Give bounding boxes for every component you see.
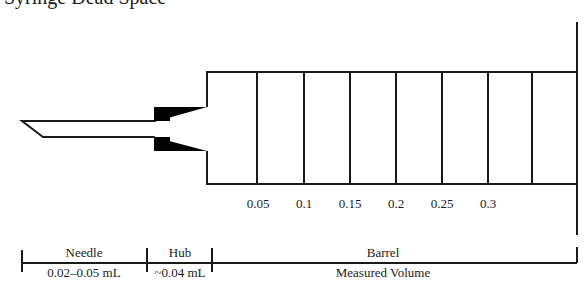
- graduation-label: 0.3: [480, 196, 496, 212]
- needle: [22, 121, 155, 137]
- needle-volume: 0.02–0.05 mL: [47, 265, 120, 281]
- barrel-volume: Measured Volume: [336, 265, 430, 281]
- hub-volume: ~0.04 mL: [154, 265, 205, 281]
- barrel-label: Barrel: [367, 245, 399, 261]
- graduation-label: 0.2: [388, 196, 404, 212]
- graduation-label: 0.15: [339, 196, 362, 212]
- needle-label: Needle: [66, 245, 103, 261]
- graduation-label: 0.05: [247, 196, 270, 212]
- barrel-outline: [207, 72, 577, 107]
- hub-top-block: [154, 107, 170, 121]
- graduation-label: 0.25: [431, 196, 454, 212]
- syringe-diagram: [0, 0, 588, 286]
- graduation-label: 0.1: [296, 196, 312, 212]
- hub-label: Hub: [169, 245, 191, 261]
- hub-bottom-block: [154, 137, 170, 151]
